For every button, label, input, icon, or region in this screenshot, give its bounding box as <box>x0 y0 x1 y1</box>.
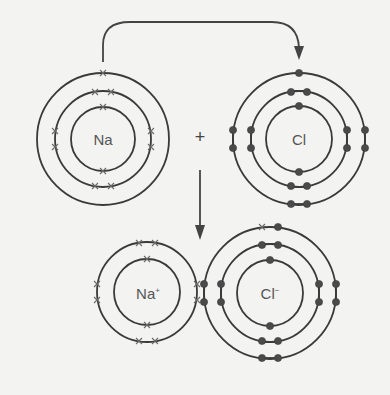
plus-sign: + <box>195 127 206 148</box>
sodium-ion-symbol: Na+ <box>136 285 160 302</box>
chloride-ion-charge: − <box>275 286 280 295</box>
reaction-arrow <box>195 170 205 240</box>
diagram-canvas <box>0 0 390 395</box>
chloride-ion-symbol: Cl− <box>261 285 280 302</box>
sodium-symbol: Na <box>93 131 112 148</box>
chlorine-symbol: Cl <box>292 131 306 148</box>
ionic-bond-diagram: Na Cl + Na+ Cl− <box>0 0 390 395</box>
electron-transfer-arrow <box>103 22 304 62</box>
sodium-ion-charge: + <box>155 286 160 295</box>
